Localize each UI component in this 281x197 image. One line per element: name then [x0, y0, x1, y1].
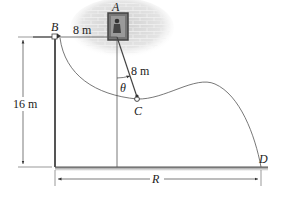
label-c: C	[134, 104, 143, 118]
label-theta: θ	[120, 81, 126, 95]
label-height: 16 m	[13, 97, 38, 111]
label-d: D	[258, 152, 268, 166]
label-ab-length: 8 m	[73, 23, 92, 37]
window-person-a	[108, 13, 128, 40]
projectile-diagram: A B C D 8 m 8 m θ 16 m R	[0, 0, 281, 197]
label-a: A	[111, 0, 120, 14]
theta-arc	[117, 76, 130, 78]
object-c	[135, 94, 140, 101]
platform-b	[33, 34, 61, 40]
label-ac-length: 8 m	[131, 64, 150, 78]
label-b: B	[51, 20, 59, 34]
ground	[55, 167, 268, 171]
trajectory-curve	[60, 38, 261, 167]
label-range: R	[151, 172, 160, 186]
